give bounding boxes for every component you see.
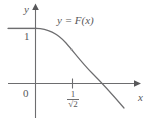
inflection-point-dot	[70, 48, 72, 50]
x-axis-arrowhead	[134, 80, 141, 87]
function-graph-figure: y x 1 0 y = F(x) 1 √2	[0, 0, 150, 121]
x-tick-label-fraction: 1 √2	[64, 90, 82, 110]
fraction-denominator: √2	[67, 100, 78, 109]
fraction-numerator: 1	[67, 90, 78, 99]
fraction: 1 √2	[67, 90, 78, 110]
y-tick-label-one: 1	[24, 31, 30, 42]
y-axis-arrowhead	[32, 4, 39, 11]
origin-label-zero: 0	[23, 88, 29, 99]
y-axis-label: y	[24, 4, 29, 15]
curve-equation-label: y = F(x)	[57, 15, 94, 26]
x-axis-label: x	[138, 92, 143, 103]
